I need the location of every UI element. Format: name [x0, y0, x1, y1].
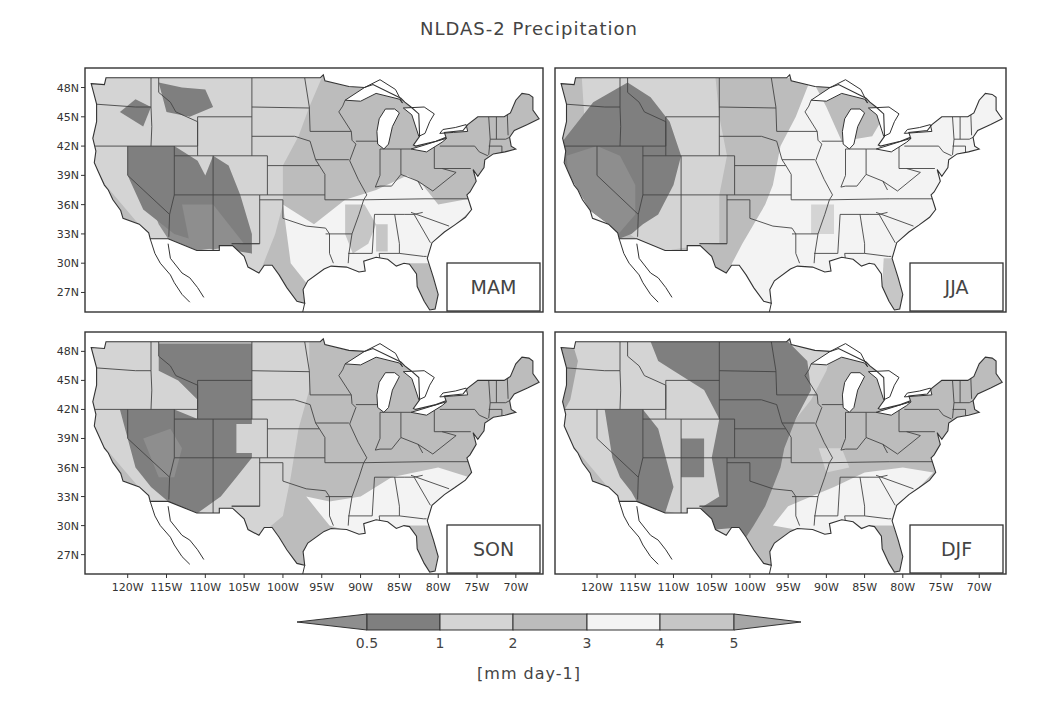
map-panel-son: SON48N45N42N39N36N33N30N27N120W115W110W1…: [57, 332, 543, 594]
colorbar-extend-high: [734, 614, 801, 630]
x-tick-label: 100W: [267, 581, 299, 594]
x-tick-label: 80W: [890, 581, 915, 594]
season-label: DJF: [941, 538, 972, 560]
colorbar-extend-low: [297, 614, 367, 630]
y-tick-label: 45N: [57, 374, 79, 387]
x-tick-label: 80W: [426, 581, 451, 594]
x-tick-label: 85W: [387, 581, 412, 594]
y-tick-label: 30N: [57, 520, 79, 533]
x-tick-label: 115W: [619, 581, 651, 594]
season-label: MAM: [471, 276, 517, 298]
y-tick-label: 42N: [57, 403, 79, 416]
x-tick-label: 110W: [658, 581, 690, 594]
season-label: JJA: [944, 276, 969, 298]
x-tick-label: 90W: [814, 581, 839, 594]
y-tick-label: 48N: [57, 82, 79, 95]
colorbar-units-label: [mm day-1]: [0, 664, 1058, 683]
colorbar-segment: [513, 614, 587, 630]
y-tick-label: 27N: [57, 286, 79, 299]
x-tick-label: 120W: [112, 581, 144, 594]
x-tick-label: 105W: [696, 581, 728, 594]
x-tick-label: 75W: [465, 581, 490, 594]
colorbar-tick-label: 5: [730, 635, 739, 651]
x-tick-label: 95W: [776, 581, 801, 594]
seasonal-map-panels: MAM48N45N42N39N36N33N30N27NJJASON48N45N4…: [0, 0, 1058, 714]
x-tick-label: 85W: [852, 581, 877, 594]
colorbar-segment: [440, 614, 513, 630]
colorbar-tick-label: 2: [509, 635, 518, 651]
y-tick-label: 36N: [57, 199, 79, 212]
colorbar-segment: [660, 614, 734, 630]
colorbar-tick-label: 3: [583, 635, 592, 651]
y-tick-label: 33N: [57, 491, 79, 504]
y-tick-label: 39N: [57, 169, 79, 182]
x-tick-label: 110W: [189, 581, 221, 594]
y-tick-label: 48N: [57, 345, 79, 358]
map-panel-jja: JJA: [555, 68, 1006, 332]
x-tick-label: 75W: [929, 581, 954, 594]
y-tick-label: 30N: [57, 257, 79, 270]
y-tick-label: 33N: [57, 228, 79, 241]
x-tick-label: 70W: [967, 581, 992, 594]
colorbar-tick-label: 4: [656, 635, 665, 651]
colorbar-tick-label: 1: [436, 635, 445, 651]
y-tick-label: 36N: [57, 462, 79, 475]
x-tick-label: 70W: [503, 581, 528, 594]
x-tick-label: 120W: [581, 581, 613, 594]
season-label: SON: [473, 538, 514, 560]
x-tick-label: 100W: [734, 581, 766, 594]
map-panel-mam: MAM48N45N42N39N36N33N30N27N: [57, 68, 543, 332]
colorbar-tick-label: 0.5: [356, 635, 378, 651]
colorbar: 0.512345: [297, 614, 801, 651]
colorbar-segment: [367, 614, 440, 630]
x-tick-label: 115W: [151, 581, 183, 594]
y-tick-label: 39N: [57, 432, 79, 445]
x-tick-label: 105W: [228, 581, 260, 594]
x-tick-label: 95W: [309, 581, 334, 594]
y-tick-label: 45N: [57, 111, 79, 124]
map-panel-djf: DJF120W115W110W105W100W95W90W85W80W75W70…: [555, 332, 1006, 594]
x-tick-label: 90W: [348, 581, 373, 594]
colorbar-segment: [587, 614, 660, 630]
y-tick-label: 27N: [57, 549, 79, 562]
y-tick-label: 42N: [57, 140, 79, 153]
